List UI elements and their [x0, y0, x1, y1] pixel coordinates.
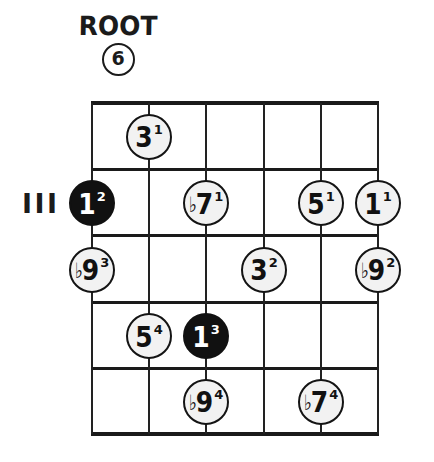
finger-number: 1: [326, 190, 335, 203]
scale-degree: 3: [250, 257, 267, 285]
note-label: 51: [307, 192, 334, 217]
scale-degree: 7: [311, 389, 328, 417]
scale-degree: 9: [82, 257, 99, 285]
note-label: 32: [250, 258, 277, 283]
note-label: 31: [135, 125, 162, 150]
finger-number: 1: [383, 190, 392, 203]
note-b9-3[interactable]: ♭93: [69, 247, 115, 293]
note-label: ♭93: [75, 258, 109, 283]
finger-number: 2: [269, 256, 278, 269]
fretboard-diagram: 3112♭715111♭9332♭925413♭94♭74: [0, 0, 434, 462]
finger-number: 4: [154, 323, 163, 336]
finger-number: 2: [97, 190, 106, 203]
scale-degree: 5: [307, 190, 324, 218]
note-label: 13: [192, 325, 219, 350]
finger-number: 4: [329, 388, 338, 401]
scale-degree: 3: [135, 124, 152, 152]
note-label: ♭92: [361, 258, 395, 283]
scale-degree: 9: [368, 257, 385, 285]
note-label: ♭71: [189, 192, 223, 217]
fret-line-0: [91, 101, 379, 105]
fret-line-2: [91, 234, 379, 237]
note-label: 11: [364, 192, 391, 217]
finger-number: 2: [386, 256, 395, 269]
note-1-2[interactable]: 12: [69, 180, 115, 226]
fret-line-4: [91, 367, 379, 370]
note-3-2[interactable]: 32: [241, 247, 287, 293]
scale-degree: 7: [196, 190, 213, 218]
note-label: 12: [78, 192, 105, 217]
finger-number: 4: [214, 388, 223, 401]
scale-degree: 1: [78, 190, 95, 218]
fret-line-5: [91, 432, 379, 436]
note-label: ♭94: [189, 390, 223, 415]
fret-line-1: [91, 168, 379, 171]
scale-degree: 1: [192, 323, 209, 351]
finger-number: 3: [211, 323, 220, 336]
finger-number: 1: [154, 123, 163, 136]
note-1-3[interactable]: 13: [183, 313, 229, 359]
note-label: ♭74: [304, 390, 338, 415]
note-1-1[interactable]: 11: [355, 180, 401, 226]
note-5-4[interactable]: 54: [126, 313, 172, 359]
fret-line-3: [91, 301, 379, 304]
note-b9-4[interactable]: ♭94: [183, 379, 229, 425]
scale-degree: 1: [364, 190, 381, 218]
scale-degree: 9: [196, 389, 213, 417]
finger-number: 3: [100, 256, 109, 269]
note-3-1[interactable]: 31: [126, 114, 172, 160]
scale-degree: 5: [135, 323, 152, 351]
note-b9-2[interactable]: ♭92: [355, 247, 401, 293]
note-5-1[interactable]: 51: [298, 180, 344, 226]
finger-number: 1: [214, 190, 223, 203]
note-b7-4[interactable]: ♭74: [298, 379, 344, 425]
note-label: 54: [135, 325, 162, 350]
note-b7-1[interactable]: ♭71: [183, 180, 229, 226]
